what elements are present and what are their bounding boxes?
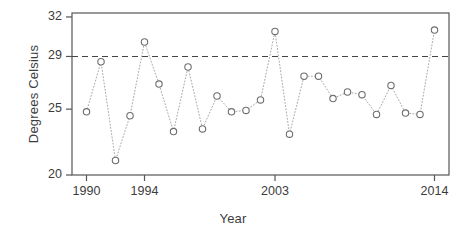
data-point <box>286 131 292 137</box>
data-point <box>301 73 307 79</box>
data-point <box>185 64 191 70</box>
y-axis-title: Degrees Celsius <box>26 4 41 184</box>
x-tick-label: 2003 <box>245 184 305 198</box>
chart-figure: Degrees Celsius Year 20252932 1990199420… <box>0 0 466 242</box>
axis-ticks <box>66 17 435 181</box>
data-point <box>141 39 147 45</box>
data-point <box>127 113 133 119</box>
data-point <box>199 126 205 132</box>
data-point <box>417 111 423 117</box>
plot-frame <box>72 13 449 175</box>
data-point <box>228 109 234 115</box>
x-tick-label: 2014 <box>405 184 465 198</box>
data-point <box>98 59 104 65</box>
y-tick-label: 25 <box>22 101 62 115</box>
x-axis-title: Year <box>0 211 466 226</box>
data-point <box>402 110 408 116</box>
x-tick-label: 1994 <box>115 184 175 198</box>
y-tick-label: 32 <box>22 9 62 23</box>
data-point <box>243 107 249 113</box>
data-point <box>170 128 176 134</box>
series-connector-line <box>87 30 435 160</box>
data-point <box>257 97 263 103</box>
data-point <box>272 28 278 34</box>
data-point <box>388 82 394 88</box>
data-point <box>330 95 336 101</box>
data-point <box>431 27 437 33</box>
data-point <box>83 109 89 115</box>
y-tick-label: 29 <box>22 48 62 62</box>
y-tick-label: 20 <box>22 167 62 181</box>
data-point <box>214 93 220 99</box>
data-point <box>156 81 162 87</box>
data-point <box>315 73 321 79</box>
data-point-markers <box>83 27 437 164</box>
scatter-plot-canvas <box>0 0 466 242</box>
data-point <box>373 111 379 117</box>
data-point <box>112 157 118 163</box>
data-point <box>344 89 350 95</box>
x-tick-label: 1990 <box>57 184 117 198</box>
data-point <box>359 91 365 97</box>
